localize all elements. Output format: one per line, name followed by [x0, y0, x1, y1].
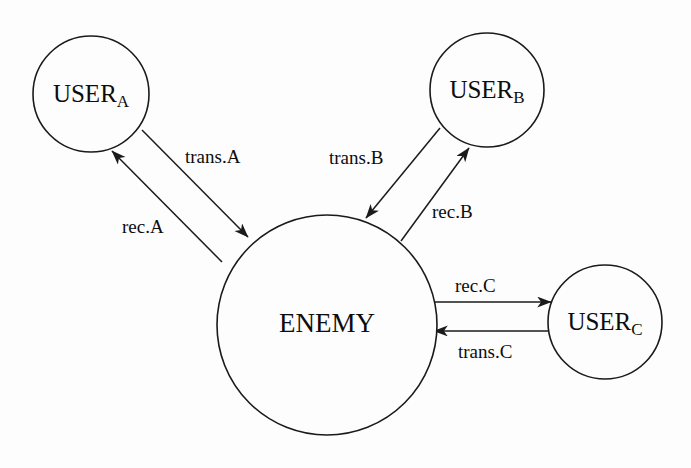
edge-trans-b	[366, 128, 440, 218]
edge-label-trans-c: trans.C	[458, 341, 512, 362]
node-label-user-b-sub: B	[513, 88, 524, 107]
node-label-user-b-main: USER	[449, 76, 513, 103]
edge-label-rec-a: rec.A	[122, 216, 164, 237]
node-label-user-a-main: USER	[53, 80, 117, 107]
node-label-user-c-sub: C	[631, 320, 642, 339]
network-diagram: USERA USERB USERC ENEMY trans.A rec.A tr…	[0, 0, 691, 468]
edge-label-rec-c: rec.C	[455, 275, 496, 296]
diagram-canvas: USERA USERB USERC ENEMY trans.A rec.A tr…	[0, 0, 691, 468]
edge-label-rec-b: rec.B	[432, 201, 473, 222]
edge-label-trans-b: trans.B	[329, 147, 383, 168]
node-label-user-c-main: USER	[567, 308, 631, 335]
node-label-enemy: ENEMY	[279, 308, 375, 338]
edge-label-trans-a: trans.A	[185, 146, 241, 167]
edge-rec-a	[112, 151, 222, 262]
node-label-user-a-sub: A	[117, 92, 130, 111]
